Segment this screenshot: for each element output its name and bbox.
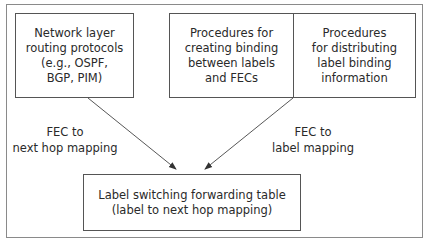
edge-label-right: FEC to label mapping (258, 124, 368, 156)
edge-label-left: FEC to next hop mapping (10, 124, 120, 156)
arrows (0, 0, 428, 244)
